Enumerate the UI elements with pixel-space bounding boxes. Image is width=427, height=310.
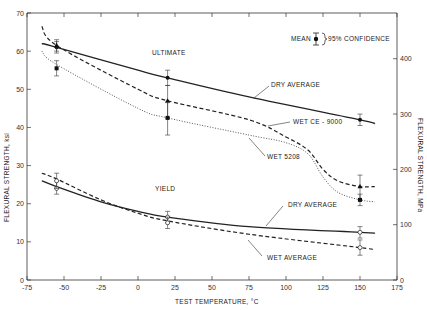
dry-average-yield-leader: [266, 206, 283, 226]
flexural-strength-chart: -75-50-250255075100125150175010203040506…: [0, 0, 427, 310]
x-tick-label: 0: [136, 284, 140, 291]
x-tick-label: 150: [354, 284, 366, 291]
series-curve: [42, 44, 375, 124]
wet-5208-leader: [249, 138, 265, 156]
wet-ce-leader: [268, 122, 290, 126]
series-curve: [42, 173, 375, 250]
data-curves: [42, 26, 375, 250]
x-tick-label: 75: [245, 284, 253, 291]
axes: -75-50-250255075100125150175010203040506…: [16, 10, 412, 292]
yield-label: YIELD: [155, 185, 175, 192]
legend: MEAN 95% CONFIDENCE: [291, 33, 390, 45]
x-tick-label: 100: [280, 284, 292, 291]
x-tick-label: 125: [317, 284, 329, 291]
y-tick-label: 70: [16, 10, 24, 17]
x-tick-label: -75: [22, 284, 32, 291]
open-circle-marker-icon: [166, 221, 170, 225]
wet-ce-9000-label: WET CE - 9000: [293, 118, 342, 125]
wet-5208-label: WET 5208: [267, 153, 300, 160]
y-right-tick-label: 200: [400, 166, 412, 173]
y-tick-label: 50: [16, 86, 24, 93]
y-axis-right-title: FLEXURAL STRENGTH, MPa: [417, 118, 424, 213]
x-tick-label: -50: [59, 284, 69, 291]
ultimate-label: ULTIMATE: [152, 49, 186, 56]
triangle-marker-icon: [165, 98, 170, 102]
filled-circle-marker-icon: [166, 76, 170, 80]
y-right-tick-label: 300: [400, 111, 412, 118]
wet-average-yield-label: WET AVERAGE: [267, 254, 317, 261]
x-axis-title: TEST TEMPERATURE, °C: [175, 298, 259, 305]
y-right-tick-label: 0: [400, 277, 404, 284]
series-curve: [42, 51, 375, 202]
wet-average-leader: [248, 240, 262, 256]
series-curve: [42, 26, 375, 187]
y-tick-label: 20: [16, 200, 24, 207]
open-circle-marker-icon: [358, 246, 362, 250]
dry-average-yield-label: DRY AVERAGE: [288, 201, 338, 208]
x-tick-label: -25: [96, 284, 106, 291]
y-axis-left-title: FLEXURAL STRENGTH, ksi: [3, 133, 10, 222]
square-marker-icon: [358, 198, 362, 202]
y-right-tick-label: 100: [400, 221, 412, 228]
filled-circle-marker-icon: [358, 118, 362, 122]
x-tick-label: 25: [171, 284, 179, 291]
square-marker-icon: [55, 66, 59, 70]
open-circle-marker-icon: [55, 179, 59, 183]
x-tick-label: 175: [391, 284, 403, 291]
square-marker-icon: [166, 116, 170, 120]
open-circle-marker-icon: [358, 230, 362, 234]
dry-average-ultimate-label: DRY AVERAGE: [271, 81, 321, 88]
legend-mean-marker-icon: [314, 37, 318, 41]
y-tick-label: 30: [16, 162, 24, 169]
legend-confidence-label: 95% CONFIDENCE: [328, 35, 390, 42]
triangle-marker-icon: [357, 184, 362, 188]
dry-average-leader: [254, 86, 269, 98]
legend-mean-label: MEAN: [291, 35, 311, 42]
y-tick-label: 60: [16, 48, 24, 55]
legend-bracket-icon: [322, 33, 327, 45]
y-tick-label: 0: [20, 277, 24, 284]
y-right-tick-label: 400: [400, 55, 412, 62]
y-tick-label: 10: [16, 238, 24, 245]
x-tick-label: 50: [208, 284, 216, 291]
y-tick-label: 40: [16, 124, 24, 131]
